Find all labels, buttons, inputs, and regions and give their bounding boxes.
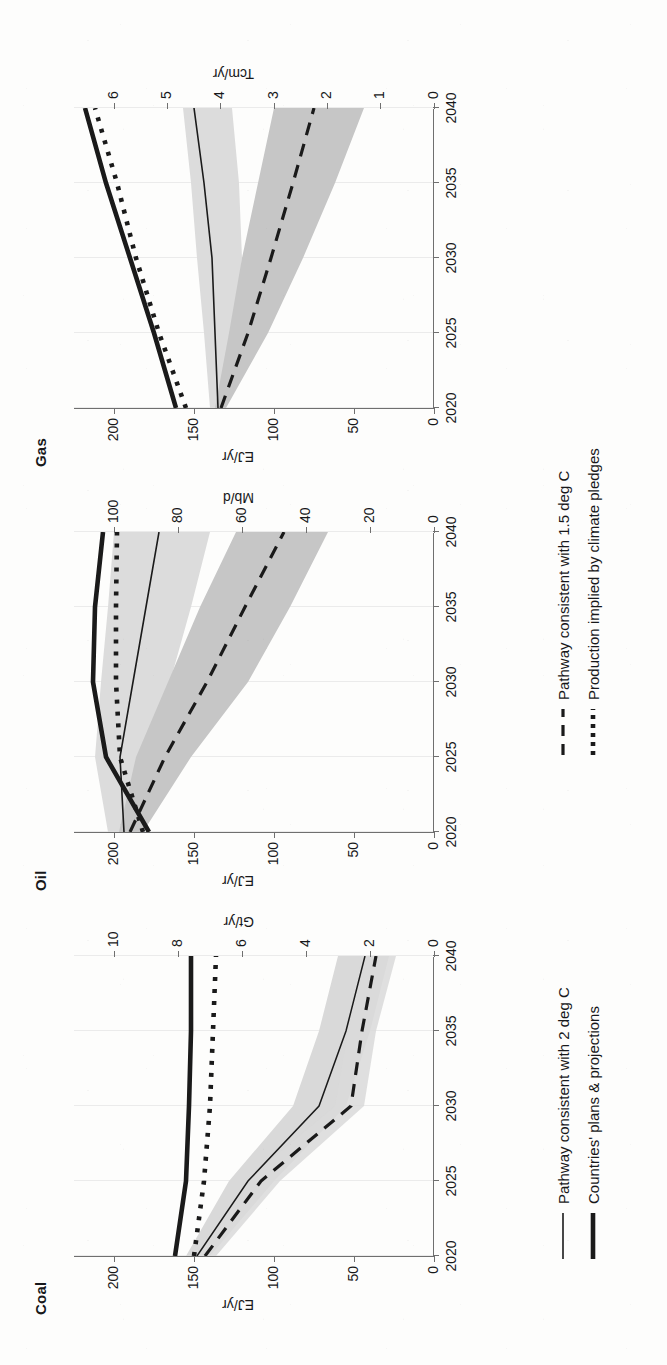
tick <box>370 527 371 533</box>
tick <box>220 103 221 109</box>
legend-item-2deg: Pathway consistent with 2 deg C <box>548 987 578 1259</box>
tick <box>433 955 439 956</box>
tick <box>370 951 371 957</box>
ytick-label-gas-right: 1 <box>371 91 387 99</box>
oil-series-svg <box>74 532 434 832</box>
ytick-label-oil-right: 20 <box>361 507 377 523</box>
tick <box>433 681 439 682</box>
tick <box>194 1256 195 1262</box>
ytick-label-coal-left: 50 <box>345 1266 361 1282</box>
ytick-label-oil-left: 50 <box>345 842 361 858</box>
tick <box>327 103 328 109</box>
xtick-label-coal: 2030 <box>443 1090 459 1121</box>
plot-area-oil: 0 50 100 150 200 0 20 40 60 80 100 <box>74 533 434 833</box>
legend-label-pledges: Production implied by climate pledges <box>586 448 601 700</box>
ytick-label-gas-right: 0 <box>425 91 441 99</box>
ytick-label-coal-left: 200 <box>105 1266 121 1289</box>
ytick-label-gas-left: 0 <box>425 418 441 426</box>
tick <box>433 1255 439 1256</box>
ytick-label-gas-right: 2 <box>318 91 334 99</box>
tick <box>242 527 243 533</box>
tick <box>114 527 115 533</box>
tick <box>306 951 307 957</box>
tick <box>167 103 168 109</box>
ytick-label-coal-right: 2 <box>361 939 377 947</box>
tick <box>434 951 435 957</box>
panel-title-oil: Oil <box>32 870 49 891</box>
xtick-label-gas: 2030 <box>443 242 459 273</box>
line-coal-plans <box>175 956 191 1256</box>
tick <box>433 182 439 183</box>
rotated-figure-wrapper: Coal EJ/yr Gt/yr <box>0 0 667 1365</box>
gas-series-svg <box>74 108 434 408</box>
ytick-label-oil-left: 150 <box>185 842 201 865</box>
tick <box>433 606 439 607</box>
axis-title-gas-right: Tcm/yr <box>213 66 254 82</box>
tick <box>433 531 439 532</box>
ytick-label-coal-right: 4 <box>297 939 313 947</box>
ytick-label-oil-right: 40 <box>297 507 313 523</box>
tick <box>354 408 355 414</box>
axis-title-coal-right: Gt/yr <box>224 914 254 930</box>
tick <box>114 408 115 414</box>
tick <box>434 832 435 838</box>
tick <box>114 832 115 838</box>
ytick-label-gas-left: 50 <box>345 418 361 434</box>
xtick-label-oil: 2030 <box>443 666 459 697</box>
tick <box>434 408 435 414</box>
xtick-label-gas: 2040 <box>443 92 459 123</box>
axis-title-oil-left: EJ/yr <box>222 873 254 889</box>
legend-item-plans: Countries' plans & projections <box>578 987 608 1259</box>
ytick-label-gas-right: 4 <box>211 91 227 99</box>
tick <box>114 103 115 109</box>
ytick-label-oil-left: 200 <box>105 842 121 865</box>
tick <box>433 1180 439 1181</box>
xtick-label-oil: 2035 <box>443 591 459 622</box>
tick <box>434 1256 435 1262</box>
axis-title-gas-left: EJ/yr <box>222 449 254 465</box>
ytick-label-oil-left: 0 <box>425 842 441 850</box>
tick <box>433 1030 439 1031</box>
tick <box>433 756 439 757</box>
ytick-label-oil-right: 60 <box>233 507 249 523</box>
ytick-label-coal-right: 0 <box>425 939 441 947</box>
ytick-label-coal-right: 6 <box>233 939 249 947</box>
legend-swatch-solid-thick-icon <box>586 1213 600 1259</box>
axis-title-coal-left: EJ/yr <box>222 1297 254 1313</box>
legend-label-2deg: Pathway consistent with 2 deg C <box>556 987 571 1204</box>
legend-swatch-dotted-icon <box>586 709 600 755</box>
xtick-label-gas: 2025 <box>443 317 459 348</box>
tick <box>274 103 275 109</box>
tick <box>433 107 439 108</box>
tick <box>380 103 381 109</box>
ytick-label-oil-left: 100 <box>265 842 281 865</box>
tick <box>274 1256 275 1262</box>
figure-canvas: Coal EJ/yr Gt/yr <box>0 0 667 1365</box>
legend-right-group: Pathway consistent with 1.5 deg C Produc… <box>548 448 608 755</box>
xtick-label-oil: 2020 <box>443 816 459 847</box>
xtick-label-coal: 2020 <box>443 1240 459 1271</box>
tick <box>433 1105 439 1106</box>
panel-gas: Gas EJ/yr Tcm/yr <box>26 76 496 471</box>
tick <box>354 1256 355 1262</box>
panel-title-coal: Coal <box>32 1282 49 1315</box>
ytick-label-coal-right: 10 <box>105 931 121 947</box>
xtick-label-gas: 2020 <box>443 392 459 423</box>
ytick-label-oil-right: 80 <box>169 507 185 523</box>
tick <box>178 951 179 957</box>
panel-oil: Oil EJ/yr Mb/d <box>26 500 496 895</box>
xtick-label-coal: 2035 <box>443 1015 459 1046</box>
tick <box>274 408 275 414</box>
tick <box>433 407 439 408</box>
ytick-label-gas-right: 3 <box>265 91 281 99</box>
legend-item-pledges: Production implied by climate pledges <box>578 448 608 755</box>
tick <box>354 832 355 838</box>
line-gas-pledges <box>95 108 186 408</box>
ytick-label-oil-right: 100 <box>105 500 121 523</box>
xtick-label-gas: 2035 <box>443 167 459 198</box>
panel-title-gas: Gas <box>32 438 49 467</box>
tick <box>434 527 435 533</box>
xtick-label-coal: 2040 <box>443 940 459 971</box>
ytick-label-gas-left: 200 <box>105 418 121 441</box>
line-gas-plans <box>85 108 176 408</box>
